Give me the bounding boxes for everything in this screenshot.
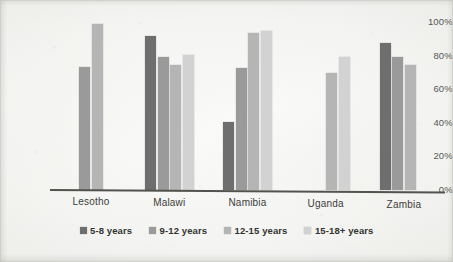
x-axis-label-uganda: Uganda: [308, 198, 344, 209]
bar-malawi-15-18-years[interactable]: [183, 55, 194, 190]
legend-item-9-12-years[interactable]: 9-12 years: [149, 225, 207, 236]
bar-group-namibia: [208, 21, 286, 190]
bar-namibia-5-8-years[interactable]: [223, 122, 234, 190]
x-axis-label-lesotho: Lesotho: [73, 196, 110, 207]
bar-namibia-9-12-years[interactable]: [236, 68, 247, 190]
bar-namibia-12-15-years[interactable]: [248, 33, 259, 190]
x-axis-label-malawi: Malawi: [153, 197, 185, 208]
bar-group-lesotho: [52, 21, 130, 190]
bar-zambia-9-12-years[interactable]: [392, 57, 403, 191]
bar-zambia-12-15-years[interactable]: [405, 65, 416, 190]
bar-malawi-9-12-years[interactable]: [158, 57, 169, 191]
legend-label: 9-12 years: [160, 225, 207, 236]
x-axis-label-namibia: Namibia: [228, 197, 266, 208]
x-axis-label-zambia: Zambia: [387, 199, 422, 210]
bar-lesotho-12-15-years[interactable]: [92, 24, 103, 190]
legend-swatch-icon: [80, 227, 87, 234]
legend-label: 12-15 years: [235, 225, 288, 236]
bar-uganda-12-15-years[interactable]: [326, 73, 337, 190]
bar-chart-plot: 0%20%40%60%80%100% LesothoMalawiNamibiaU…: [0, 0, 453, 262]
bar-group-uganda: [287, 21, 365, 190]
bar-malawi-5-8-years[interactable]: [145, 36, 156, 190]
bar-group-zambia: [365, 21, 443, 190]
scanned-chart-figure: 0%20%40%60%80%100% LesothoMalawiNamibiaU…: [0, 0, 453, 262]
bar-group-malawi: [130, 21, 208, 190]
legend-item-5-8-years[interactable]: 5-8 years: [80, 225, 133, 236]
legend-swatch-icon: [149, 227, 156, 234]
bar-lesotho-9-12-years[interactable]: [79, 67, 90, 190]
legend-item-15-18-years[interactable]: 15-18+ years: [304, 225, 373, 236]
legend-swatch-icon: [224, 227, 231, 234]
legend-label: 5-8 years: [90, 225, 132, 236]
legend-label: 15-18+ years: [315, 225, 374, 236]
bar-groups-container: [52, 21, 443, 190]
bar-zambia-5-8-years[interactable]: [380, 43, 391, 190]
bar-namibia-15-18-years[interactable]: [261, 31, 272, 190]
bar-malawi-12-15-years[interactable]: [170, 65, 181, 190]
legend-item-12-15-years[interactable]: 12-15 years: [224, 225, 287, 236]
legend-swatch-icon: [304, 227, 311, 234]
chart-legend: 5-8 years9-12 years12-15 years15-18+ yea…: [0, 225, 453, 236]
bar-uganda-15-18-years[interactable]: [339, 57, 350, 191]
